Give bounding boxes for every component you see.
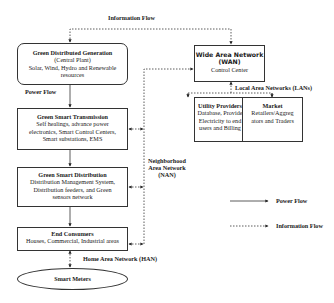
legend-power-flow-label: Power Flow: [276, 197, 307, 204]
nan-label: Neighborhood Area Network (NAN): [146, 157, 188, 179]
legend-information-flow-label: Information Flow: [276, 222, 323, 229]
han-label: Home Area Network (HAN): [83, 255, 157, 262]
node-green-smart-distribution: Green Smart Distribution Distribution Ma…: [17, 167, 128, 207]
node-line: Distribution Management System,: [18, 178, 127, 185]
node-line: resources: [18, 71, 127, 78]
node-wide-area-network: Wide Area Network (WAN) Control Center: [194, 45, 265, 82]
node-end-consumers: End Consumers Houses, Commercial, Indust…: [17, 227, 128, 251]
node-title: Green Smart Distribution: [18, 171, 127, 178]
node-line: Self healings, advance power: [18, 120, 127, 127]
lan-label: Local Area Networks (LANs): [235, 84, 312, 91]
nan-label-line: Neighborhood: [146, 157, 188, 164]
node-line: sensors network: [18, 193, 127, 200]
node-subtitle: Control Center: [195, 66, 264, 73]
node-line: Retailers/Aggreg: [243, 109, 302, 116]
power-flow-label: Power Flow: [25, 88, 56, 95]
node-line: Solar, Wind, Hydro and Renewable: [18, 64, 127, 71]
node-utility-providers: Utility Providers Database, Provide Elec…: [194, 97, 246, 142]
node-line: Electricity to end: [195, 117, 245, 124]
node-line: Database, Provide: [195, 109, 245, 116]
nan-label-line: Area Network: [146, 164, 188, 171]
node-title: Green Distributed Generation: [18, 49, 127, 56]
node-title-line: (WAN): [195, 58, 264, 65]
node-title: Utility Providers: [195, 102, 245, 109]
node-title-line: Wide Area Network: [195, 51, 264, 58]
node-line: Distribution feeders, and Green: [18, 186, 127, 193]
node-title: Market: [243, 102, 302, 109]
node-line: Houses, Commercial, Industrial areas: [18, 237, 127, 244]
node-green-smart-transmission: Green Smart Transmission Self healings, …: [17, 108, 128, 150]
node-smart-meters: Smart Meters: [17, 268, 128, 290]
node-line: electronics, Smart Control Centers,: [18, 128, 127, 135]
node-line: (Central Plant): [18, 56, 127, 63]
node-market: Market Retailers/Aggreg ators and Trader…: [242, 97, 303, 142]
node-green-distributed-generation: Green Distributed Generation (Central Pl…: [17, 43, 128, 85]
nan-label-line: (NAN): [146, 171, 188, 178]
node-line: users and Billing: [195, 124, 245, 131]
node-title: End Consumers: [18, 230, 127, 237]
node-title: Green Smart Transmission: [18, 113, 127, 120]
information-flow-top-label: Information Flow: [108, 14, 155, 21]
node-line: Smart substations, EMS: [18, 135, 127, 142]
node-line: ators and Traders: [243, 117, 302, 124]
